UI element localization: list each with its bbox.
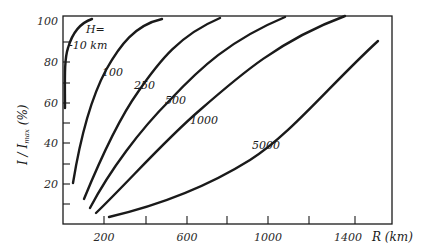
x-axis-title: R (km) [371, 230, 413, 244]
y-tick-40: 40 [43, 137, 58, 150]
curve-h1000 [96, 16, 345, 213]
y-axis-title-main: I / I [16, 144, 30, 166]
x-axis-ticks [104, 216, 355, 224]
curve-h5000 [109, 41, 378, 217]
label-h-prefix: H= [85, 23, 105, 36]
x-axis-labels: 200 600 1000 1400 [93, 231, 363, 244]
x-tick-1000: 1000 [254, 231, 282, 244]
x-tick-200: 200 [93, 231, 115, 244]
label-h5000: 5000 [252, 139, 280, 152]
label-h10: -10 km [69, 39, 107, 52]
y-axis-title: I / Imax (%) [16, 104, 31, 166]
x-tick-1400: 1400 [334, 231, 362, 244]
y-tick-80: 80 [44, 56, 58, 69]
svg-text:I / Imax (%): I / Imax (%) [16, 104, 31, 166]
y-tick-100: 100 [37, 15, 58, 28]
label-h500: 500 [165, 94, 186, 107]
x-tick-600: 600 [177, 231, 198, 244]
label-h1000: 1000 [190, 114, 218, 127]
label-h250: 250 [133, 79, 155, 92]
label-h100: 100 [102, 66, 123, 79]
y-tick-20: 20 [43, 178, 58, 191]
y-axis-title-sub: max [23, 129, 31, 144]
y-axis-title-unit: (%) [16, 104, 30, 129]
chart: 20 40 60 80 100 200 600 1000 1400 R (km)… [0, 0, 430, 251]
y-tick-60: 60 [44, 97, 58, 110]
curve-h500 [90, 17, 285, 208]
y-axis-labels: 20 40 60 80 100 [37, 15, 58, 191]
